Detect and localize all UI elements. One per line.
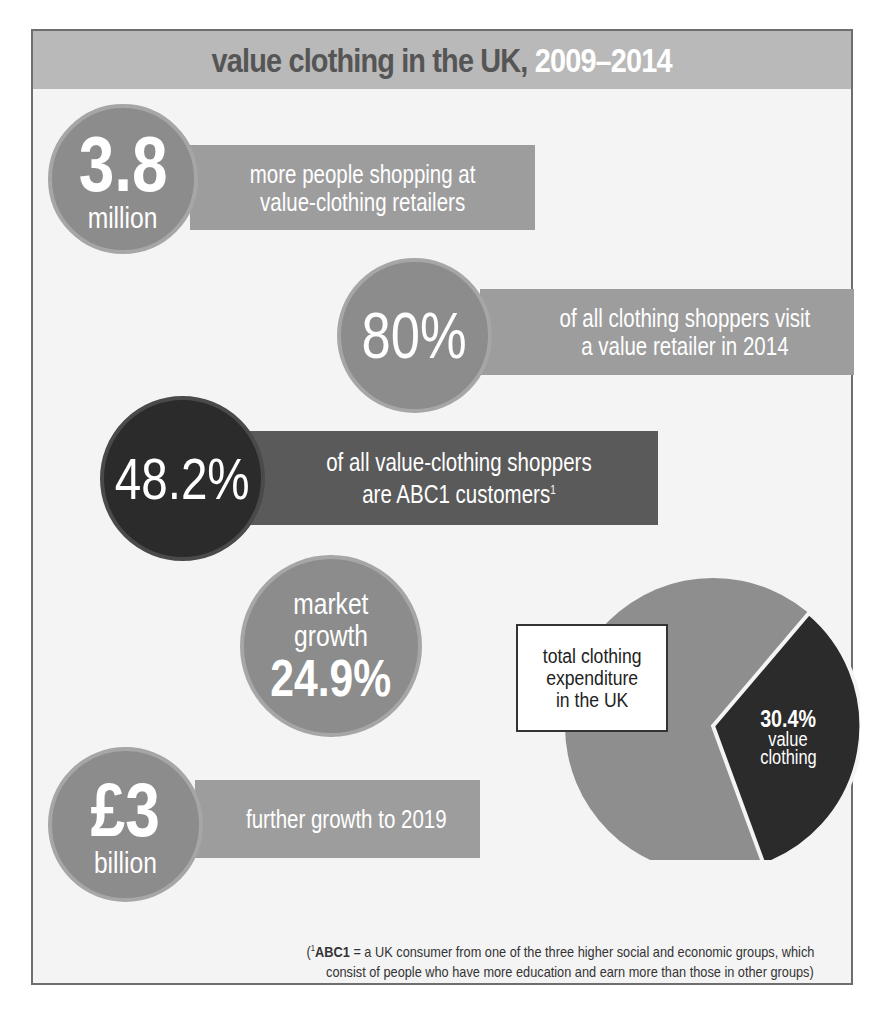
stat-3-text-line2: are ABC1 customers xyxy=(362,480,550,508)
footnote: (1ABC1 = a UK consumer from one of the t… xyxy=(0,938,814,982)
stat-1-unit: million xyxy=(88,203,158,233)
footnote-line2: consist of people who have more educatio… xyxy=(326,962,814,982)
pie-title-line3: in the UK xyxy=(556,689,628,711)
pie-title-line1: total clothing xyxy=(543,645,642,667)
stat-2-text-line1: of all clothing shoppers visit xyxy=(560,304,811,332)
title-years: 2009–2014 xyxy=(535,41,672,79)
stat-5-circle: £3 billion xyxy=(48,747,203,902)
stat-1-circle: 3.8 million xyxy=(48,104,198,254)
stat-3-bar: of all value-clothing shoppers are ABC1 … xyxy=(230,431,658,525)
stat-3-circle: 48.2% xyxy=(100,396,265,561)
stat-4-circle: market growth 24.9% xyxy=(240,555,422,737)
stat-1-value: 3.8 xyxy=(79,125,168,203)
stat-5-bar: further growth to 2019 xyxy=(195,780,480,858)
title-main: value clothing in the UK, xyxy=(212,41,528,79)
stat-2-bar: of all clothing shoppers visit a value r… xyxy=(480,289,854,375)
stat-1-text-line1: more people shopping at xyxy=(250,160,476,188)
footnote-mark: 1 xyxy=(310,943,314,953)
stat-4-label-line1: market xyxy=(293,588,368,620)
title-bar: value clothing in the UK, 2009–2014 xyxy=(33,31,851,89)
stat-5-text: further growth to 2019 xyxy=(246,805,447,834)
footnote-line1: = a UK consumer from one of the three hi… xyxy=(349,943,814,960)
stat-2-value: 80% xyxy=(362,304,467,368)
footnote-term: ABC1 xyxy=(315,943,350,960)
pie-title-box: total clothing expenditure in the UK xyxy=(516,624,668,732)
stat-2-text-line2: a value retailer in 2014 xyxy=(581,332,788,360)
stat-1-bar: more people shopping at value-clothing r… xyxy=(190,145,535,230)
pie-title-line2: expenditure xyxy=(546,667,638,689)
stat-3-value: 48.2% xyxy=(115,450,250,508)
pie-slice-label: 30.4% value clothing xyxy=(740,706,836,768)
pie-slice-label-line2: clothing xyxy=(760,747,817,767)
stat-5-unit: billion xyxy=(94,848,157,878)
stat-4-label-line2: growth xyxy=(294,620,368,652)
stat-2-circle: 80% xyxy=(337,258,492,413)
stat-1-text-line2: value-clothing retailers xyxy=(260,188,465,216)
infographic-title: value clothing in the UK, 2009–2014 xyxy=(212,31,672,89)
stat-3-footnote-mark: 1 xyxy=(550,483,555,497)
stat-4-value: 24.9% xyxy=(271,652,392,704)
stat-5-value: £3 xyxy=(91,772,160,848)
stat-3-text-line1: of all value-clothing shoppers xyxy=(326,448,592,476)
